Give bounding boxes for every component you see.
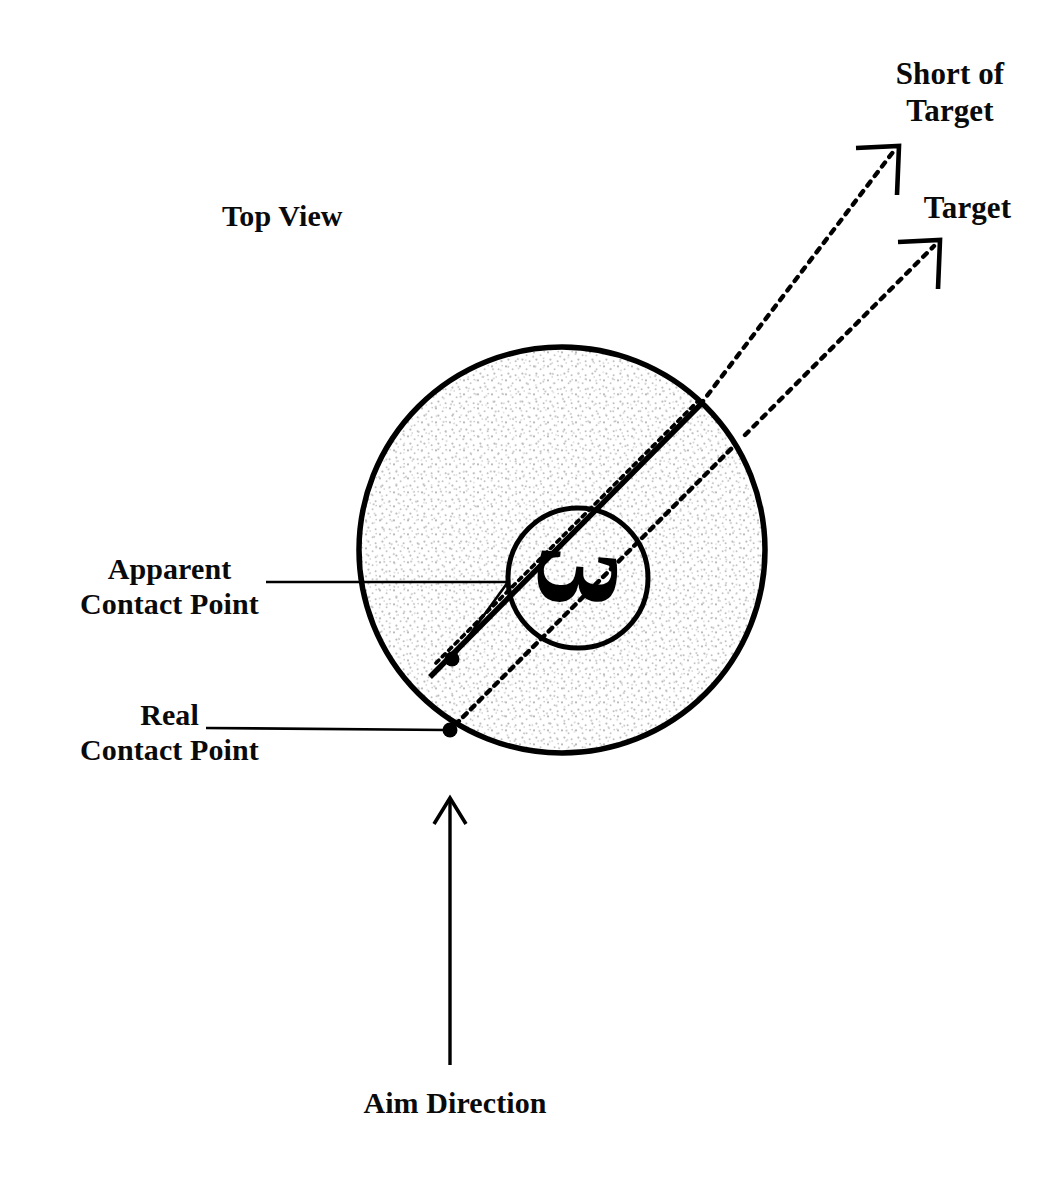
target-dotted-tail: [745, 246, 934, 435]
label-short-of-target: Short of Target: [845, 56, 1055, 129]
short-of-target-arrow: [700, 146, 899, 405]
aim-direction-arrow: [434, 798, 466, 1065]
target-arrow: [745, 240, 940, 435]
label-aim-direction: Aim Direction: [330, 1085, 580, 1120]
short-of-target-dotted-tail: [700, 152, 893, 405]
label-top-view: Top View: [222, 198, 422, 233]
label-target: Target: [880, 190, 1055, 227]
label-apparent-contact-point: Apparent Contact Point: [42, 551, 297, 622]
diagram-root: 3 Short of Target Target Top View Appare…: [0, 0, 1055, 1182]
ball-number: 3: [510, 543, 646, 613]
label-real-contact-point: Real Contact Point: [42, 697, 297, 768]
